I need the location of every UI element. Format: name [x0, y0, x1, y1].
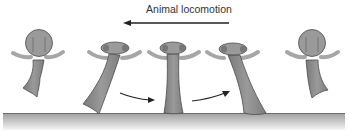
- transition-arrow-icon: [120, 93, 155, 103]
- bone-icon: [83, 54, 120, 114]
- bone-head-icon: [299, 30, 326, 57]
- arc-right: [181, 52, 199, 58]
- transition-arrow-icon: [192, 91, 230, 101]
- bone-head-icon: [26, 30, 53, 57]
- bone-icon: [164, 54, 183, 114]
- figure-3-midstance: [149, 42, 199, 114]
- arc-right: [122, 52, 140, 58]
- figure-5-swing: [287, 30, 338, 99]
- arc-left: [13, 53, 31, 57]
- bone-icon: [306, 60, 328, 98]
- arc-left: [89, 52, 107, 58]
- bone-icon: [228, 55, 266, 115]
- figure-2-touchdown: [83, 42, 140, 114]
- arc-right: [321, 52, 338, 57]
- arc-left: [149, 52, 166, 58]
- diagram-canvas: [0, 0, 350, 133]
- figure-4-pushoff: [207, 43, 266, 115]
- bone-icon: [23, 60, 44, 97]
- figure-1-swing: [13, 30, 63, 98]
- arc-left: [207, 52, 224, 58]
- direction-arrow-icon: [123, 20, 229, 26]
- ground: [3, 113, 345, 130]
